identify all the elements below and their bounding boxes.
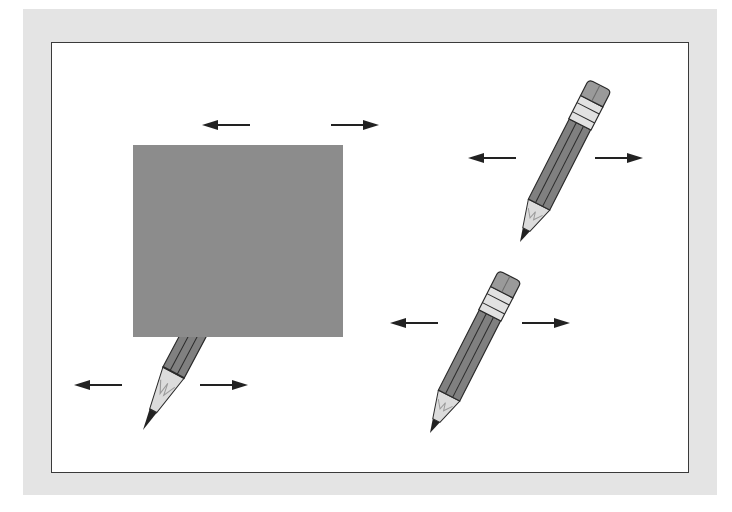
arrow-left-icon xyxy=(74,380,122,390)
arrow-right-icon xyxy=(595,153,643,163)
arrow-right-icon xyxy=(522,318,570,328)
pencil-illustration xyxy=(0,0,732,512)
arrow-right-icon xyxy=(331,120,379,130)
arrow-left-icon xyxy=(390,318,438,328)
pencil-bottom-right xyxy=(419,271,521,439)
pencil-top-right xyxy=(509,80,611,248)
occluder-square xyxy=(133,145,343,337)
arrow-left-icon xyxy=(468,153,516,163)
arrow-right-icon xyxy=(200,380,248,390)
arrow-left-icon xyxy=(202,120,250,130)
